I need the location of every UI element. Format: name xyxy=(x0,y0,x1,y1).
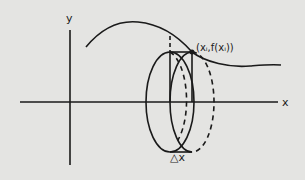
diagram-canvas xyxy=(0,0,305,180)
point-xi-marker xyxy=(190,50,195,55)
point-label: (xᵢ,f(xᵢ)) xyxy=(196,43,234,53)
x-axis-label: x xyxy=(282,97,289,108)
disk-method-diagram: y x (xᵢ,f(xᵢ)) △x xyxy=(0,0,305,180)
delta-x-label: △x xyxy=(170,152,185,163)
y-axis-label: y xyxy=(66,13,73,24)
